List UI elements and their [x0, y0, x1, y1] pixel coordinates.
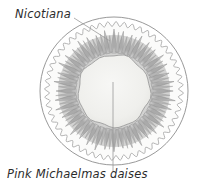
- circular-bed-group: [40, 17, 188, 165]
- label-nicotiana: Nicotiana: [15, 9, 71, 21]
- planting-plan-diagram: Nicotiana Pink Michaelmas daises: [0, 0, 201, 187]
- garden-bed-illustration: [0, 0, 201, 187]
- label-pink-michaelmas-daises: Pink Michaelmas daises: [7, 169, 148, 181]
